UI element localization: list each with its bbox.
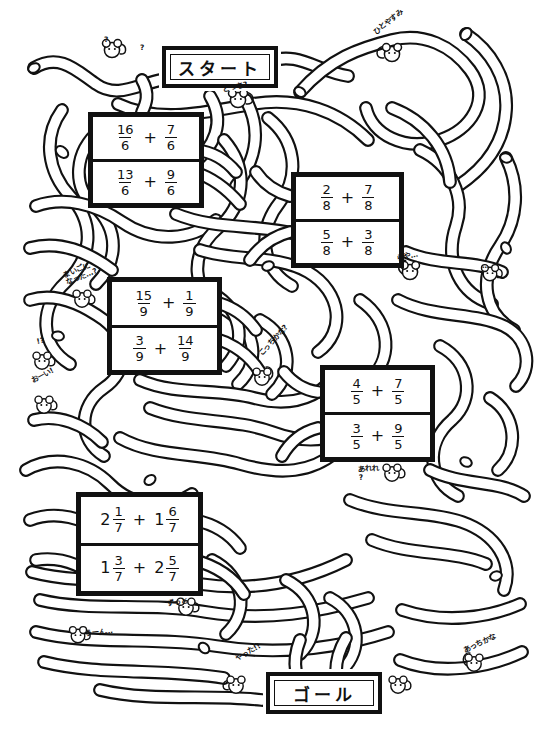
right-denominator: 9 xyxy=(179,348,191,363)
anno-question-top-left-2: ? xyxy=(140,44,144,52)
right-numerator: 7 xyxy=(392,377,404,391)
right-fraction: 76 xyxy=(165,123,177,152)
left-denominator: 7 xyxy=(113,519,125,534)
right-fraction: 149 xyxy=(175,334,196,363)
right-term: 149 xyxy=(175,334,196,363)
right-numerator: 3 xyxy=(362,228,374,242)
left-fraction: 136 xyxy=(115,168,136,197)
left-denominator: 9 xyxy=(133,348,145,363)
left-denominator: 8 xyxy=(321,242,333,257)
problem-box[interactable]: 28+7858+38 xyxy=(291,172,404,268)
left-fraction: 45 xyxy=(351,377,363,406)
left-fraction: 166 xyxy=(115,123,136,152)
left-term: 45 xyxy=(351,377,363,406)
right-fraction: 75 xyxy=(392,377,404,406)
left-numerator: 2 xyxy=(321,183,333,197)
problem-row[interactable]: 28+78 xyxy=(296,177,399,219)
right-numerator: 14 xyxy=(175,334,196,348)
right-numerator: 7 xyxy=(362,183,374,197)
plus-operator: + xyxy=(132,560,147,576)
left-term: 137 xyxy=(100,554,124,583)
right-fraction: 96 xyxy=(165,168,177,197)
left-denominator: 5 xyxy=(351,391,363,406)
anno-arare: あれれ? xyxy=(358,465,380,482)
goal-marker-box[interactable]: ゴール xyxy=(266,672,382,714)
left-fraction: 159 xyxy=(133,289,154,318)
right-denominator: 6 xyxy=(165,137,177,152)
left-fraction: 35 xyxy=(351,422,363,451)
plus-operator: + xyxy=(142,130,157,146)
fraction-expression: 45+75 xyxy=(351,377,405,406)
fraction-expression: 137+257 xyxy=(100,554,178,583)
problem-row[interactable]: 45+75 xyxy=(325,370,430,412)
right-numerator: 5 xyxy=(166,554,178,568)
left-fraction: 28 xyxy=(321,183,333,212)
plus-operator: + xyxy=(370,383,385,399)
left-term: 39 xyxy=(133,334,145,363)
plus-operator: + xyxy=(161,295,176,311)
left-term: 159 xyxy=(133,289,154,318)
mouse-goal-left xyxy=(223,676,245,693)
anno-question-top-left: ? xyxy=(104,36,108,44)
plus-operator: + xyxy=(340,190,355,206)
right-fraction: 67 xyxy=(166,505,178,534)
fraction-expression: 58+38 xyxy=(321,228,375,257)
left-numerator: 3 xyxy=(133,334,145,348)
problem-box[interactable]: 45+7535+95 xyxy=(320,365,435,462)
right-denominator: 7 xyxy=(166,519,178,534)
left-numerator: 5 xyxy=(321,228,333,242)
left-term: 217 xyxy=(100,505,124,534)
problem-row[interactable]: 159+19 xyxy=(112,282,217,325)
right-denominator: 5 xyxy=(392,436,404,451)
anno-question-left: !? xyxy=(36,337,45,346)
left-numerator: 15 xyxy=(133,289,154,303)
problem-box[interactable]: 166+76136+96 xyxy=(88,112,204,208)
left-denominator: 7 xyxy=(113,568,125,583)
start-label: スタート xyxy=(170,54,270,80)
plus-operator: + xyxy=(132,512,147,528)
left-denominator: 6 xyxy=(119,182,131,197)
left-fraction: 17 xyxy=(113,505,125,534)
right-term: 19 xyxy=(183,289,195,318)
right-denominator: 9 xyxy=(183,303,195,318)
problem-box[interactable]: 159+1939+149 xyxy=(107,277,222,375)
problem-row[interactable]: 35+95 xyxy=(325,412,430,457)
right-fraction: 38 xyxy=(362,228,374,257)
problem-row[interactable]: 136+96 xyxy=(93,159,199,204)
maze-noodle-artwork: .n{fill:none;stroke:#111;stroke-width:2.… xyxy=(0,0,546,734)
fraction-expression: 166+76 xyxy=(115,123,177,152)
right-numerator: 6 xyxy=(166,505,178,519)
right-denominator: 8 xyxy=(362,242,374,257)
plus-operator: + xyxy=(370,428,385,444)
right-denominator: 7 xyxy=(166,568,178,583)
fraction-expression: 159+19 xyxy=(133,289,195,318)
left-denominator: 5 xyxy=(351,436,363,451)
mouse-left-lower xyxy=(35,396,57,413)
problem-row[interactable]: 217+167 xyxy=(81,497,198,543)
left-term: 35 xyxy=(351,422,363,451)
right-denominator: 8 xyxy=(362,197,374,212)
left-term: 28 xyxy=(321,183,333,212)
plus-operator: + xyxy=(153,341,168,357)
plus-operator: + xyxy=(142,174,157,190)
left-numerator: 3 xyxy=(351,422,363,436)
problem-row[interactable]: 58+38 xyxy=(296,219,399,264)
problem-row[interactable]: 166+76 xyxy=(93,117,199,159)
right-fraction: 78 xyxy=(362,183,374,212)
fraction-expression: 28+78 xyxy=(321,183,375,212)
right-fraction: 95 xyxy=(392,422,404,451)
problem-box[interactable]: 217+167137+257 xyxy=(76,492,203,596)
right-fraction: 19 xyxy=(183,289,195,318)
right-whole-number: 2 xyxy=(154,560,164,576)
left-term: 136 xyxy=(115,168,136,197)
left-numerator: 1 xyxy=(113,505,125,519)
problem-row[interactable]: 39+149 xyxy=(112,325,217,371)
left-denominator: 8 xyxy=(321,197,333,212)
right-term: 78 xyxy=(362,183,374,212)
right-numerator: 9 xyxy=(392,422,404,436)
start-marker-box[interactable]: スタート xyxy=(162,46,278,88)
problem-row[interactable]: 137+257 xyxy=(81,543,198,592)
fraction-expression: 136+96 xyxy=(115,168,177,197)
right-term: 38 xyxy=(362,228,374,257)
goal-label: ゴール xyxy=(274,680,374,706)
